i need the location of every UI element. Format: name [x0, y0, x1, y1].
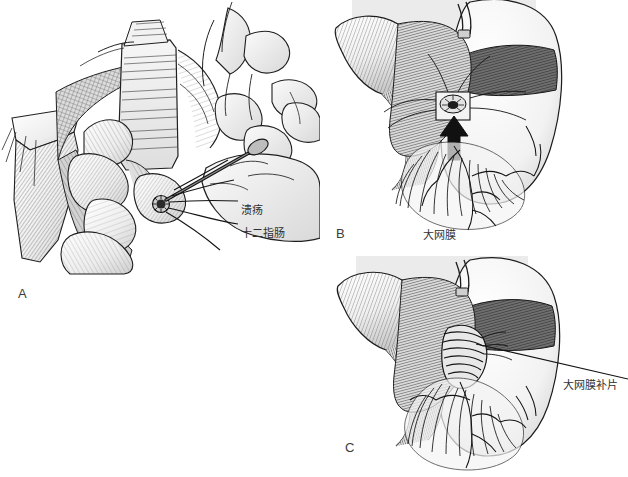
panel-b-letter: B — [336, 226, 345, 241]
label-ulcer: 溃疡 — [241, 201, 263, 217]
medical-figure: A 溃疡 十二指肠 — [0, 0, 628, 477]
panel-c: C — [330, 248, 628, 477]
label-duodenum: 十二指肠 — [241, 224, 285, 240]
panel-b-illustration — [330, 0, 628, 250]
panel-a-letter: A — [18, 286, 27, 301]
label-omental-patch: 大网膜补片 — [563, 376, 618, 392]
panel-b: B — [330, 0, 628, 250]
label-greater-omentum: 大网膜 — [423, 226, 456, 242]
serosal-band — [461, 45, 558, 95]
panel-c-letter: C — [345, 440, 355, 455]
panel-c-illustration — [330, 248, 628, 477]
